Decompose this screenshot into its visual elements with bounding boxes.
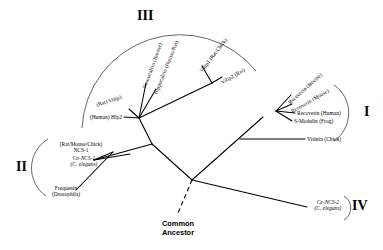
taxon-label-ce-ncs1-line2: (C. elegans): [58, 161, 110, 167]
group-numeral-ii: II: [16, 160, 27, 174]
branch-to-vilip-node: [139, 83, 212, 118]
taxon-label-s-modulin-frog: S-Modulin (Frog): [294, 118, 333, 124]
branch-to-group-iv: [192, 180, 307, 207]
taxon-label-ce-ncs2-line2: (C. elegans): [308, 205, 348, 211]
group-numeral-i: I: [364, 105, 369, 119]
group-numeral-iv: IV: [352, 199, 368, 213]
common-ancestor-label-line2: Ancestor: [144, 228, 212, 237]
taxon-label-visinin-chick: Visinin (Chick): [307, 136, 341, 142]
branch-internal-core: [152, 144, 192, 180]
tree-branches: [94, 83, 307, 207]
tree-diagram-svg: [0, 0, 383, 250]
common-ancestor-label-line1: Common: [144, 219, 212, 228]
common-ancestor-dashed-line: [178, 180, 192, 213]
taxon-label-recoverin-human: Recoverin (Human): [297, 110, 341, 116]
branch-to-group-iii: [139, 118, 152, 144]
branch-vilip3-rat: [129, 109, 139, 118]
group-iii-branches: [124, 66, 222, 118]
phylogenetic-tree-figure: Recoverin (Bovine) Recoverin (Mouse) Rec…: [0, 0, 383, 250]
taxon-label-frequenin-line2: (Drosophila): [42, 191, 90, 197]
taxon-label-ncs1-vertebrate-line2: NCS-1: [52, 147, 110, 153]
group-i-branches: [240, 95, 305, 139]
branch-to-group-i: [192, 117, 263, 180]
group-numeral-iii: III: [137, 9, 153, 23]
branch-hlp2-human: [124, 117, 139, 118]
